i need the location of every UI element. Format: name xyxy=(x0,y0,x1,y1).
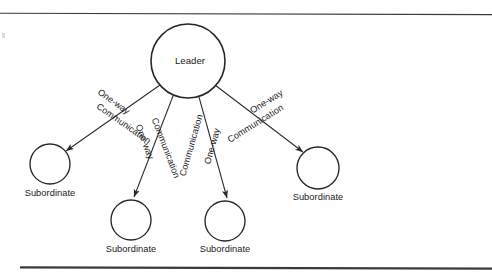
subordinate-node-2[interactable] xyxy=(111,200,151,240)
top-rule xyxy=(0,13,492,14)
subordinate-node-1[interactable] xyxy=(30,144,70,184)
subordinate-label-4: Subordinate xyxy=(293,192,344,202)
subordinate-node-3[interactable] xyxy=(205,201,245,241)
bottom-rule xyxy=(20,267,492,268)
subordinate-node-4[interactable] xyxy=(297,147,339,189)
edge-2-label-one-way: One-way xyxy=(134,123,157,161)
figure-root: Leader Subordinate Subordinate Subordina… xyxy=(0,0,492,280)
subordinate-label-3: Subordinate xyxy=(200,244,251,254)
scan-artifact-mark xyxy=(2,33,5,38)
communication-diagram: Leader Subordinate Subordinate Subordina… xyxy=(0,0,492,280)
subordinate-label-1: Subordinate xyxy=(25,188,76,198)
edge-label-group: One-way Communication One-way Communicat… xyxy=(95,87,285,180)
edge-3-label-one-way: One-way xyxy=(202,127,222,165)
leader-label: Leader xyxy=(175,55,206,66)
subordinate-label-2: Subordinate xyxy=(106,244,157,254)
edge-3-label-communication: Communication xyxy=(178,113,205,177)
edge-2-label-communication: Communication xyxy=(150,116,182,179)
